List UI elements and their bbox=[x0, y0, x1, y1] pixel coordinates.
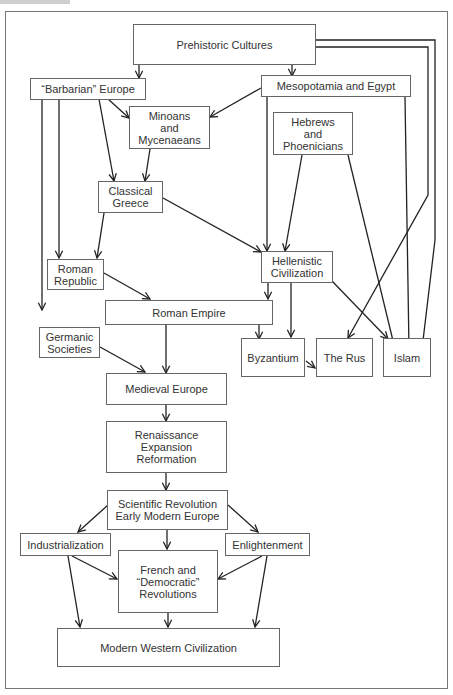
node-hellenistic-civilization: Hellenistic Civilization bbox=[261, 251, 333, 283]
node-byzantium: Byzantium bbox=[241, 338, 305, 377]
node-islam: Islam bbox=[383, 338, 431, 377]
node-medieval-europe: Medieval Europe bbox=[106, 373, 227, 405]
node-industrialization: Industrialization bbox=[20, 533, 111, 556]
node-scientific-revolution: Scientific Revolution Early Modern Europ… bbox=[107, 490, 228, 530]
node-prehistoric-cultures: Prehistoric Cultures bbox=[133, 24, 316, 65]
node-the-rus: The Rus bbox=[316, 338, 373, 377]
node-mesopotamia-egypt: Mesopotamia and Egypt bbox=[261, 75, 411, 97]
node-modern-western-civilization: Modern Western Civilization bbox=[57, 628, 280, 667]
node-barbarian-europe: “Barbarian” Europe bbox=[30, 78, 146, 100]
node-hebrews-phoenicians: Hebrews and Phoenicians bbox=[273, 112, 353, 155]
node-roman-empire: Roman Empire bbox=[105, 300, 273, 325]
node-germanic-societies: Germanic Societies bbox=[39, 327, 100, 358]
node-enlightenment: Enlightenment bbox=[225, 533, 310, 556]
node-roman-republic: Roman Republic bbox=[47, 259, 104, 290]
node-renaissance-expansion-reformation: Renaissance Expansion Reformation bbox=[106, 421, 227, 473]
node-classical-greece: Classical Greece bbox=[98, 181, 163, 213]
node-minoans-mycenaeans: Minoans and Mycenaeans bbox=[129, 106, 210, 149]
node-french-democratic-revolutions: French and “Democratic” Revolutions bbox=[118, 550, 218, 613]
